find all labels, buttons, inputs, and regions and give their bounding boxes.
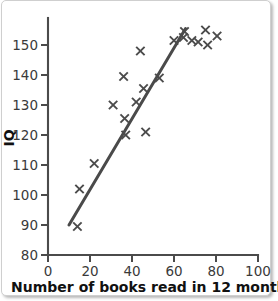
- data-point: [141, 128, 149, 136]
- x-axis-tick-labels: 020406080100: [44, 263, 271, 279]
- data-point: [132, 98, 140, 106]
- data-point-markers: [73, 26, 221, 231]
- x-tick-label: 40: [123, 263, 140, 279]
- data-point: [139, 84, 147, 92]
- x-tick-label: 100: [245, 263, 271, 279]
- y-tick-label: 110: [12, 157, 38, 173]
- x-tick-label: 20: [81, 263, 98, 279]
- chart-svg: 8090100110120130140150 020406080100 Numb…: [0, 0, 278, 301]
- y-tick-label: 140: [12, 67, 38, 83]
- data-point: [90, 159, 98, 167]
- data-point: [73, 222, 81, 230]
- x-tick-label: 80: [207, 263, 224, 279]
- data-point: [119, 72, 127, 80]
- data-point: [194, 38, 202, 46]
- data-point: [201, 26, 209, 34]
- data-point: [109, 101, 117, 109]
- y-tick-label: 90: [21, 217, 38, 233]
- data-point: [120, 114, 128, 122]
- y-tick-label: 80: [21, 247, 38, 263]
- y-tick-label: 100: [12, 187, 38, 203]
- y-tick-label: 130: [12, 97, 38, 113]
- y-axis-title: IQ: [1, 129, 17, 146]
- data-point: [136, 47, 144, 55]
- axes: [48, 18, 258, 255]
- trend-line: [69, 29, 186, 226]
- y-tick-label: 150: [12, 37, 38, 53]
- scatter-plot: 8090100110120130140150 020406080100 Numb…: [0, 0, 278, 301]
- data-point: [213, 32, 221, 40]
- data-point: [75, 185, 83, 193]
- chart-page: 8090100110120130140150 020406080100 Numb…: [0, 0, 278, 301]
- y-axis-tick-labels: 8090100110120130140150: [12, 37, 38, 263]
- x-tick-label: 0: [44, 263, 53, 279]
- data-point: [203, 41, 211, 49]
- x-axis-title: Number of books read in 12 months: [11, 279, 278, 295]
- x-tick-label: 60: [165, 263, 182, 279]
